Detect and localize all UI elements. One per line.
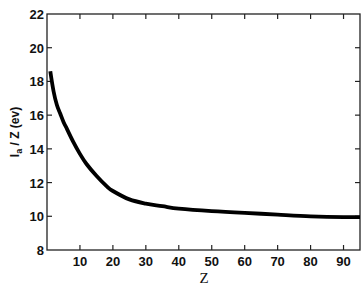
x-tick-label: 30 (139, 254, 153, 269)
y-tick-label: 16 (30, 108, 44, 123)
y-axis-title: Ia / Z (ev) (8, 107, 24, 157)
y-tick-label: 20 (30, 41, 44, 56)
x-tick-label: 50 (205, 254, 219, 269)
x-tick-label: 90 (336, 254, 350, 269)
x-tick-label: 80 (303, 254, 317, 269)
x-tick-label: 60 (237, 254, 251, 269)
x-axis-ticks: 102030405060708090 (73, 14, 351, 269)
x-tick-label: 20 (106, 254, 120, 269)
y-tick-label: 18 (30, 74, 44, 89)
y-tick-label: 22 (30, 7, 44, 22)
data-series (50, 71, 360, 217)
x-tick-label: 70 (270, 254, 284, 269)
y-tick-label: 10 (30, 209, 44, 224)
x-tick-label: 40 (172, 254, 186, 269)
chart: 810121416182022 102030405060708090 Z Ia … (0, 0, 364, 289)
y-tick-label: 12 (30, 176, 44, 191)
x-axis-title: Z (199, 270, 208, 286)
series-line (50, 71, 360, 217)
x-tick-label: 10 (73, 254, 87, 269)
y-tick-label: 8 (37, 243, 44, 258)
y-axis-ticks: 810121416182022 (30, 7, 360, 258)
y-tick-label: 14 (30, 142, 45, 157)
